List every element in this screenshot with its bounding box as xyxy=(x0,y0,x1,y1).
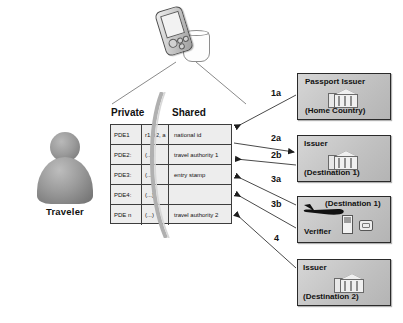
flow-label-2a: 2a xyxy=(271,133,281,143)
diagram-canvas: Traveler Private Shared PDE1 r1, r2, a n… xyxy=(0,0,403,323)
flow-arrows xyxy=(0,0,403,323)
flow-label-3a: 3a xyxy=(271,174,281,184)
flow-label-4: 4 xyxy=(274,233,279,243)
flow-label-2b: 2b xyxy=(271,150,282,160)
flow-label-3b: 3b xyxy=(271,199,282,209)
flow-label-1a: 1a xyxy=(271,88,281,98)
